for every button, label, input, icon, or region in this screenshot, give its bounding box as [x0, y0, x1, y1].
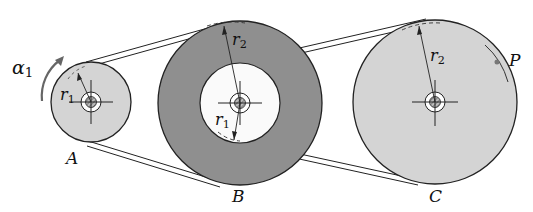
pulley-b-inner-radius-label: r1 [215, 112, 230, 130]
pulley-a-label: A [66, 150, 78, 167]
pulley-c [353, 20, 517, 184]
diagram-canvas [0, 0, 533, 212]
pulley-b-label: B [232, 188, 245, 205]
point-p-label: P [509, 52, 520, 69]
alpha-1-label: α1 [12, 58, 33, 79]
pulley-a-radius-label: r1 [60, 87, 75, 105]
belt-pulley-diagram: α1 r1 A r2 r1 B r2 P C [0, 0, 533, 212]
pulley-c-radius-label: r2 [430, 48, 445, 66]
pulley-c-label: C [429, 188, 442, 205]
point-p-marker [495, 60, 500, 65]
pulley-b-outer-radius-label: r2 [232, 32, 247, 50]
